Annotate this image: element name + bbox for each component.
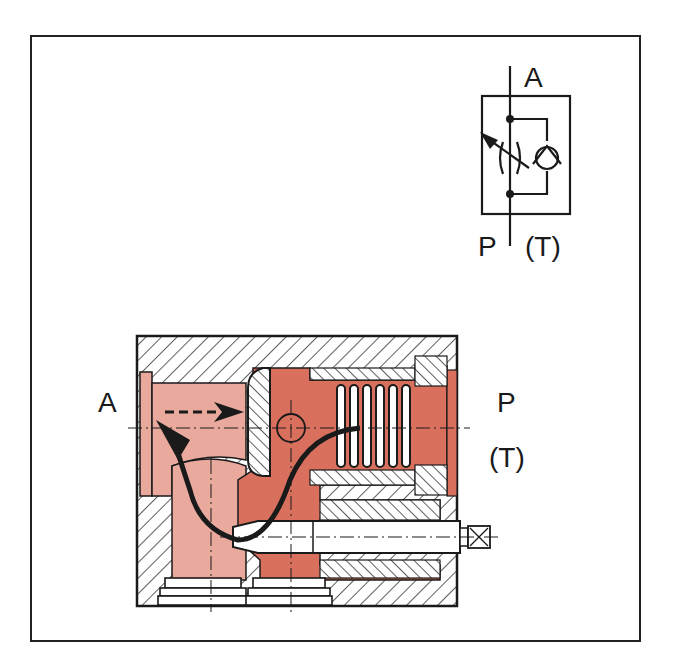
section-port-p: P [497,389,516,417]
right-flange [447,370,457,496]
section-port-a: A [98,389,117,417]
vertical-channel [172,459,246,580]
sectional-view [0,0,675,662]
left-flange [140,372,152,496]
throttle-sleeve-top [320,500,440,520]
end-cap-top [415,356,447,386]
spring-guide-bottom [310,470,415,485]
section-port-t: (T) [489,444,525,472]
end-cap-bottom [415,465,447,495]
throttle-sleeve-bottom [320,560,440,578]
spring-guide-top [310,368,415,380]
poppet [248,368,270,476]
